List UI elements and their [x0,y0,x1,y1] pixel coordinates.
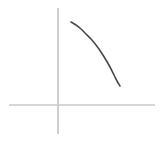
figure-canvas [0,0,163,141]
plot-svg [0,0,163,141]
plot-background [0,0,163,141]
